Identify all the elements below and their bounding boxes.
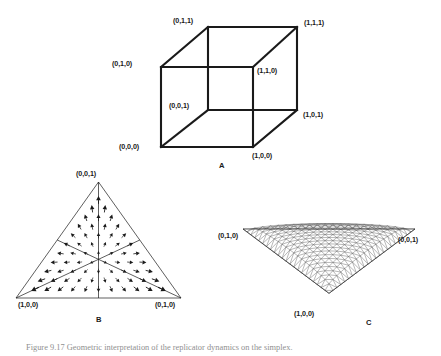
cube-vertex-label-111: (1,1,1) (304, 19, 324, 26)
panel-letter-b: B (96, 315, 101, 324)
surface-mesh-lines (243, 224, 415, 294)
surface-vertex-label-100: (1,0,0) (294, 310, 314, 317)
cube-edges (161, 27, 297, 147)
simplex-vector-field-svg (0, 170, 225, 335)
cube-wireframe-svg (0, 0, 441, 165)
panel-a-cube: (0,1,1) (1,1,1) (0,1,0) (1,1,0) (0,0,1) … (0, 0, 441, 165)
surface-vertex-label-010: (0,1,0) (218, 232, 238, 239)
cube-vertex-label-010: (0,1,0) (112, 60, 132, 67)
surface-vertex-label-001: (0,0,1) (398, 236, 418, 243)
figure-caption: Figure 9.17 Geometric interpretation of … (0, 344, 441, 356)
panel-letter-c: C (366, 318, 371, 327)
cube-vertex-label-100: (1,0,0) (252, 152, 272, 159)
cube-vertex-label-000: (0,0,0) (119, 143, 139, 150)
figure-9-17: (0,1,1) (1,1,1) (0,1,0) (1,1,0) (0,0,1) … (0, 0, 441, 356)
panel-b-simplex-vector-field: (0,0,1) (1,0,0) (0,1,0) B (0, 170, 225, 335)
panel-letter-a: A (219, 161, 224, 170)
cube-vertex-label-011: (0,1,1) (173, 17, 193, 24)
simplex-vertex-label-010: (0,1,0) (155, 301, 175, 308)
panel-c-simplex-surface: (0,1,0) (0,0,1) (1,0,0) C (218, 170, 441, 335)
cube-vertex-label-101: (1,0,1) (303, 111, 323, 118)
cube-vertex-label-110: (1,1,0) (257, 67, 277, 74)
figure-caption-text: Figure 9.17 Geometric interpretation of … (26, 344, 293, 352)
simplex-surface-mesh-svg (218, 170, 441, 335)
cube-vertex-label-001: (0,0,1) (169, 102, 189, 109)
simplex-vertex-label-100: (1,0,0) (18, 301, 38, 308)
simplex-vertex-label-001: (0,0,1) (76, 170, 96, 177)
